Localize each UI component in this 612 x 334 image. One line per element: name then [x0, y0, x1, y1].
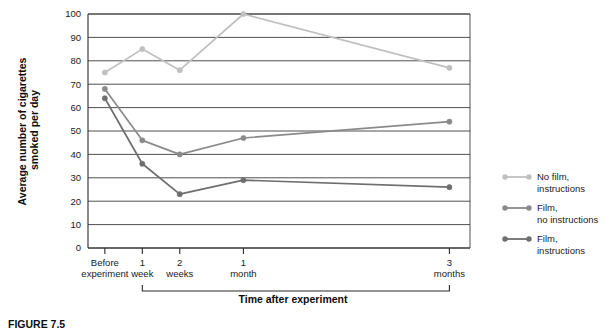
x-tick-labels-group: Beforeexperiment1week2weeks1month3months — [81, 257, 465, 279]
x-tick-label: 1week — [130, 257, 153, 279]
data-point — [241, 135, 246, 140]
y-tick-label: 40 — [70, 149, 81, 160]
figure-caption: FIGURE 7.5 — [8, 318, 65, 330]
y-axis-title: Average number of cigarettes smoked per … — [16, 55, 40, 206]
legend-swatch-marker — [502, 174, 507, 179]
legend-swatch-marker — [526, 174, 531, 179]
legend-swatch-marker — [526, 205, 531, 210]
figure-container: Average number of cigarettes smoked per … — [0, 0, 612, 334]
data-point — [177, 152, 182, 157]
x-axis-range-bracket — [142, 285, 449, 291]
y-tick-label: 60 — [70, 102, 81, 113]
data-point — [447, 185, 452, 190]
data-point — [241, 11, 246, 16]
legend-swatch-marker — [502, 205, 507, 210]
series-lines-group — [105, 14, 450, 194]
y-tick-label: 0 — [76, 242, 81, 253]
chart-legend: No film,instructionsFilm,no instructions… — [502, 171, 598, 256]
data-point — [177, 68, 182, 73]
y-tick-labels-group: 0102030405060708090100 — [65, 8, 81, 253]
x-tick-label: 1month — [230, 257, 256, 279]
y-tick-label: 50 — [70, 125, 81, 136]
y-tick-label: 20 — [70, 196, 81, 207]
y-tick-label: 100 — [65, 8, 81, 19]
y-tick-label: 80 — [70, 55, 81, 66]
legend-label: Film,instructions — [537, 233, 585, 256]
x-tick-label: Beforeexperiment — [81, 257, 128, 279]
series-line-0 — [105, 14, 450, 73]
data-point — [102, 96, 107, 101]
y-tick-label: 70 — [70, 79, 81, 90]
data-point — [140, 47, 145, 52]
data-point — [102, 70, 107, 75]
x-axis-bracket — [142, 285, 449, 291]
series-line-1 — [105, 89, 450, 155]
x-tick-marks-group — [105, 248, 450, 254]
x-tick-label: 2weeks — [165, 257, 193, 279]
gridlines-group — [88, 14, 470, 248]
legend-label: Film,no instructions — [537, 202, 599, 225]
x-tick-label: 3months — [434, 257, 465, 279]
y-tick-label: 10 — [70, 219, 81, 230]
series-markers-group — [102, 11, 452, 196]
data-point — [447, 65, 452, 70]
x-axis-title: Time after experiment — [239, 293, 348, 305]
data-point — [140, 161, 145, 166]
data-point — [177, 192, 182, 197]
cigarette-consumption-line-chart: Average number of cigarettes smoked per … — [0, 0, 612, 334]
data-point — [447, 119, 452, 124]
y-tick-label: 90 — [70, 32, 81, 43]
legend-swatch-marker — [526, 236, 531, 241]
data-point — [241, 178, 246, 183]
data-point — [102, 86, 107, 91]
legend-swatch-marker — [502, 236, 507, 241]
legend-label: No film,instructions — [537, 171, 585, 194]
y-tick-label: 30 — [70, 172, 81, 183]
data-point — [140, 138, 145, 143]
